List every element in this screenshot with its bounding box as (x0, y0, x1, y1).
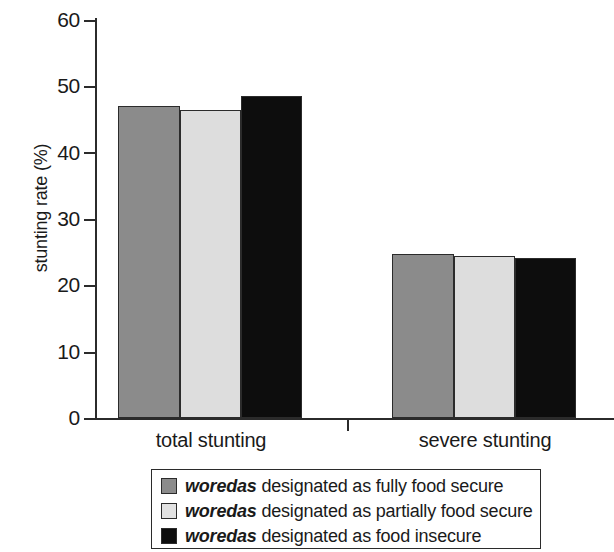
legend-emphasis-woredas-1: woredas (185, 476, 257, 496)
y-tick-label-60: 60 (34, 9, 80, 30)
bar-total-stunting-partially-food-secure (180, 110, 241, 418)
x-axis-line (95, 418, 614, 420)
y-tick-label-0: 0 (34, 407, 80, 428)
x-category-label-severe-stunting: severe stunting (393, 428, 577, 452)
legend-item-fully-food-secure: woredas designated as fully food secure (161, 474, 540, 498)
legend-swatch-fully-food-secure (161, 478, 177, 494)
legend-swatch-partially-food-secure (161, 503, 177, 519)
y-axis-title-holder: stunting rate (%) (18, 0, 19, 1)
legend-rest-2: designated as partially food secure (257, 501, 533, 521)
bar-severe-stunting-partially-food-secure (454, 256, 515, 418)
y-tick-10 (84, 352, 95, 354)
x-category-label-total-stunting: total stunting (120, 428, 302, 452)
bar-total-stunting-food-insecure (241, 96, 302, 418)
bar-severe-stunting-fully-food-secure (392, 254, 454, 418)
legend-label-fully-food-secure: woredas designated as fully food secure (185, 476, 503, 496)
bar-total-stunting-fully-food-secure (118, 106, 180, 418)
bar-severe-stunting-food-insecure (515, 258, 576, 418)
x-axis-group-tick (347, 420, 349, 431)
chart-legend: woredas designated as fully food secure … (151, 469, 541, 549)
y-tick-30 (84, 219, 95, 221)
legend-item-food-insecure: woredas designated as food insecure (161, 524, 540, 548)
y-tick-50 (84, 86, 95, 88)
legend-item-partially-food-secure: woredas designated as partially food sec… (161, 499, 540, 523)
legend-rest-1: designated as fully food secure (257, 476, 504, 496)
legend-emphasis-woredas-2: woredas (185, 501, 257, 521)
legend-rest-3: designated as food insecure (257, 526, 482, 546)
bar-chart: 60 50 40 30 20 10 0 stunting rate (%) to… (0, 0, 614, 552)
y-tick-0 (84, 418, 95, 420)
legend-swatch-food-insecure (161, 528, 177, 544)
legend-emphasis-woredas-3: woredas (185, 526, 257, 546)
legend-label-food-insecure: woredas designated as food insecure (185, 526, 481, 546)
y-axis-title: stunting rate (%) (31, 43, 51, 373)
y-tick-20 (84, 285, 95, 287)
y-tick-60 (84, 20, 95, 22)
legend-label-partially-food-secure: woredas designated as partially food sec… (185, 501, 533, 521)
y-axis-line (95, 18, 97, 420)
y-tick-40 (84, 152, 95, 154)
